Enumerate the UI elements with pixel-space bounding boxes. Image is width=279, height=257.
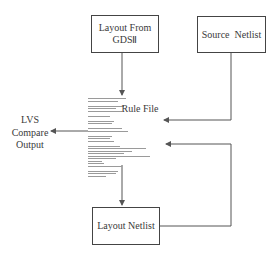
arrow-source-to-rule [164,53,231,120]
arrow-layout-netlist-to-rule [160,144,231,226]
code-line [88,176,106,177]
code-line [88,151,132,152]
layout-netlist-box: Layout Netlist [92,207,160,245]
lvs-compare-output-label: LVS Compare Output [10,114,50,152]
code-line [88,116,110,117]
code-line [88,108,116,109]
code-line [88,158,116,159]
code-line [88,121,114,122]
code-line [88,98,126,99]
code-line [88,141,114,142]
code-line [88,123,112,124]
code-line [88,173,116,174]
source-netlist-box: Source Netlist [197,16,266,53]
source-netlist-label: Source Netlist [202,29,261,41]
lvs-line2: Compare [10,127,50,140]
code-line [88,146,120,147]
lvs-line1: LVS [10,114,50,127]
layout-gds-line1: Layout From [99,22,152,34]
code-line [88,136,112,137]
code-line [88,163,104,164]
code-line [88,156,150,157]
code-line [88,138,110,139]
code-line [88,161,102,162]
layout-netlist-label: Layout Netlist [97,220,155,232]
code-line [88,111,122,112]
lvs-line3: Output [10,139,50,152]
rule-file-label: Rule File [118,103,162,115]
code-line [88,131,128,132]
code-line [88,101,118,102]
code-line [88,148,146,149]
layout-gds-line2: GDSⅡ [99,34,152,46]
code-line [88,171,118,172]
code-line [88,166,122,167]
code-line [88,128,122,129]
code-line [88,153,124,154]
layout-gds-box: Layout From GDSⅡ [91,15,159,53]
